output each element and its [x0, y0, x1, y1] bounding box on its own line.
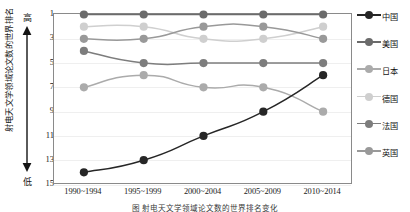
data-point-marker[interactable]: [140, 10, 148, 18]
data-point-marker[interactable]: [199, 10, 207, 18]
data-point-marker[interactable]: [319, 23, 327, 31]
x-axis-tick-label: 2010~2014: [284, 187, 360, 196]
data-point-marker[interactable]: [259, 59, 267, 67]
legend-item-label: 法国: [382, 119, 398, 131]
data-point-marker[interactable]: [319, 59, 327, 67]
y-axis-tick-label: 1: [32, 9, 54, 18]
y-axis-tick-label: 5: [32, 58, 54, 67]
legend-item-5[interactable]: 英国: [357, 145, 410, 157]
data-point-marker[interactable]: [140, 23, 148, 31]
data-point-marker[interactable]: [80, 10, 88, 18]
data-point-marker[interactable]: [80, 35, 88, 43]
data-point-marker[interactable]: [319, 10, 327, 18]
y-axis-tick-label: 13: [32, 155, 54, 164]
legend-dot-icon: [365, 120, 373, 128]
data-point-marker[interactable]: [199, 35, 207, 43]
radio-astronomy-ranking-chart: 射电天文学领域论文数的世界排名 高 低 13579111315 1990~199…: [0, 0, 410, 212]
data-point-marker[interactable]: [80, 23, 88, 31]
y-axis-tick-label: 9: [32, 106, 54, 115]
y-axis-tick-label: 11: [32, 131, 54, 140]
legend-marker-icon: [357, 118, 381, 130]
data-point-marker[interactable]: [259, 35, 267, 43]
figure-caption: 图 射电天文学领域论文数的世界排名变化: [0, 202, 410, 212]
data-point-marker[interactable]: [259, 108, 267, 116]
series-4: [80, 47, 327, 67]
series-1: [80, 10, 327, 18]
data-point-marker[interactable]: [199, 59, 207, 67]
legend-dot-icon: [365, 93, 373, 101]
data-point-marker[interactable]: [199, 132, 207, 140]
data-point-marker[interactable]: [319, 108, 327, 116]
legend-marker-icon: [357, 145, 381, 157]
legend-item-2[interactable]: 日本: [357, 63, 410, 75]
series-2: [80, 71, 327, 116]
data-point-marker[interactable]: [80, 168, 88, 176]
data-point-marker[interactable]: [259, 10, 267, 18]
double-headed-arrow-icon: [21, 26, 33, 172]
data-point-marker[interactable]: [199, 23, 207, 31]
plot-area: [53, 13, 352, 184]
legend-item-4[interactable]: 法国: [357, 118, 410, 130]
legend-marker-icon: [357, 91, 381, 103]
legend-dot-icon: [365, 38, 373, 46]
data-point-marker[interactable]: [80, 83, 88, 91]
legend-item-label: 日本: [382, 64, 398, 76]
data-point-marker[interactable]: [319, 71, 327, 79]
legend-dot-icon: [365, 147, 373, 155]
y-axis-title: 射电天文学领域论文数的世界排名: [2, 0, 14, 160]
data-point-marker[interactable]: [140, 35, 148, 43]
legend-item-label: 中国: [382, 10, 398, 22]
legend-marker-icon: [357, 36, 381, 48]
legend-dot-icon: [365, 65, 373, 73]
legend-item-label: 英国: [382, 146, 398, 158]
legend-item-1[interactable]: 美国: [357, 36, 410, 48]
legend: 中国美国日本德国法国英国: [357, 9, 410, 169]
legend-item-label: 德国: [382, 92, 398, 104]
series-line: [84, 75, 323, 111]
legend-marker-icon: [357, 63, 381, 75]
legend-marker-icon: [357, 9, 381, 21]
legend-item-0[interactable]: 中国: [357, 9, 410, 21]
y-axis-tick-label: 3: [32, 33, 54, 42]
data-point-marker[interactable]: [319, 35, 327, 43]
y-axis-tick-label: 7: [32, 82, 54, 91]
data-point-marker[interactable]: [140, 156, 148, 164]
legend-item-3[interactable]: 德国: [357, 91, 410, 103]
data-point-marker[interactable]: [199, 83, 207, 91]
data-point-marker[interactable]: [140, 71, 148, 79]
legend-dot-icon: [365, 11, 373, 19]
data-point-marker[interactable]: [140, 59, 148, 67]
legend-item-label: 美国: [382, 37, 398, 49]
data-point-marker[interactable]: [259, 23, 267, 31]
series-layer: [54, 14, 353, 185]
data-point-marker[interactable]: [259, 83, 267, 91]
data-point-marker[interactable]: [80, 47, 88, 55]
